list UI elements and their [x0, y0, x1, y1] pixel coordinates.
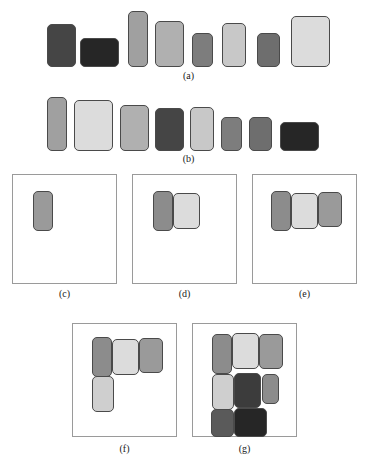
block-c-1 [33, 191, 53, 231]
bin-panel-e [252, 174, 357, 284]
caption-e: (e) [275, 288, 335, 300]
block-f-2 [112, 339, 139, 375]
caption-f: (f) [95, 443, 155, 455]
block-g-3 [259, 334, 283, 369]
block-e-1 [271, 191, 291, 231]
block-d-2 [173, 193, 200, 229]
block-b-3 [120, 105, 149, 151]
block-a-5 [192, 33, 213, 67]
block-b-1 [47, 97, 67, 151]
block-a-2 [80, 38, 119, 67]
block-a-8 [291, 16, 330, 67]
caption-b: (b) [159, 153, 219, 165]
bin-panel-c [12, 174, 117, 284]
block-g-2 [232, 333, 259, 369]
block-b-8 [280, 122, 319, 151]
block-f-4 [92, 376, 114, 412]
block-f-3 [139, 338, 163, 373]
block-a-3 [128, 11, 148, 67]
block-b-4 [155, 108, 184, 151]
block-b-7 [249, 117, 272, 151]
block-a-4 [155, 21, 184, 67]
block-e-2 [291, 193, 318, 229]
block-g-4 [212, 374, 234, 410]
block-g-6 [262, 374, 279, 404]
block-e-3 [318, 192, 342, 227]
block-g-5 [234, 373, 261, 408]
block-b-2 [74, 100, 113, 151]
bin-panel-d [132, 174, 237, 284]
block-f-1 [92, 337, 112, 377]
block-b-5 [190, 107, 214, 151]
caption-c: (c) [35, 288, 95, 300]
block-b-6 [221, 117, 242, 151]
block-packing-figure: (a)(b)(c)(d)(e)(f)(g) [0, 0, 370, 474]
block-a-1 [47, 24, 76, 67]
caption-g: (g) [215, 443, 275, 455]
block-d-1 [153, 191, 173, 231]
block-g-8 [234, 408, 267, 437]
block-a-7 [257, 33, 280, 67]
block-a-6 [222, 23, 246, 67]
caption-a: (a) [159, 70, 219, 82]
caption-d: (d) [155, 288, 215, 300]
block-g-1 [212, 334, 232, 374]
block-g-7 [211, 409, 234, 437]
